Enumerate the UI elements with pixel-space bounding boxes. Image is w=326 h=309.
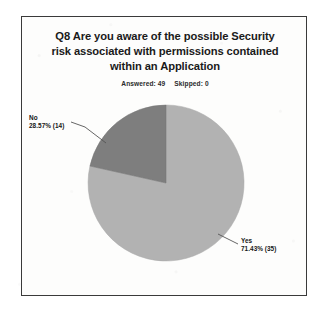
pie-label-yes: Yes 71.43% (35) [241, 237, 276, 254]
pie-chart-svg [22, 17, 308, 297]
pie-label-no-name: No [29, 114, 64, 122]
pie-label-yes-name: Yes [241, 237, 276, 245]
pie-chart-plot-area: No 28.57% (14) Yes 71.43% (35) [22, 17, 308, 297]
chart-panel: Q8 Are you aware of the possible Securit… [21, 16, 307, 296]
pie-label-no-value: 28.57% (14) [29, 122, 64, 130]
pie-label-no: No 28.57% (14) [29, 114, 64, 131]
leader-line-yes [218, 234, 238, 244]
pie-label-yes-value: 71.43% (35) [241, 245, 276, 253]
